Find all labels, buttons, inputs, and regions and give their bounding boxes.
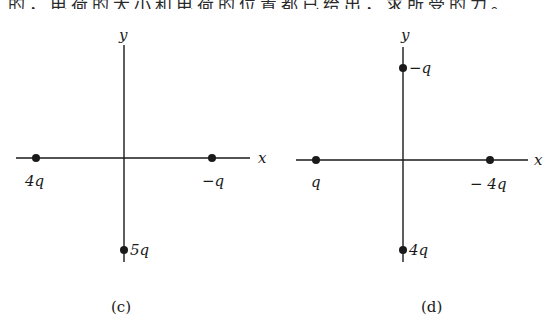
- charge-dot-c-2: [208, 154, 216, 162]
- charge-dot-c-1: [32, 154, 40, 162]
- charge-label-d-3: − 4q: [470, 175, 506, 193]
- figure-d: x y −q q − 4q 4q: [296, 26, 543, 262]
- charge-label-c-3: 5q: [130, 241, 149, 259]
- charge-dot-d-1: [399, 64, 407, 72]
- charge-label-d-1: −q: [409, 59, 431, 77]
- charge-label-c-2: −q: [202, 172, 224, 190]
- charge-label-d-4: 4q: [408, 241, 428, 259]
- caption-d: (d): [421, 298, 442, 316]
- charge-dot-d-2: [312, 156, 320, 164]
- charge-dot-c-3: [120, 246, 128, 254]
- charge-dot-d-3: [486, 156, 494, 164]
- figure-c: x y 4q −q 5q: [16, 26, 267, 262]
- x-axis-label-d: x: [534, 151, 543, 169]
- caption-c: (c): [111, 298, 131, 316]
- x-axis-label-c: x: [258, 149, 267, 167]
- charge-diagrams: x y 4q −q 5q x y −q q − 4q 4q: [0, 0, 543, 333]
- y-axis-label-d: y: [400, 26, 410, 44]
- charge-label-d-2: q: [311, 173, 321, 191]
- y-axis-label-c: y: [118, 26, 128, 44]
- charge-dot-d-4: [399, 246, 407, 254]
- charge-label-c-1: 4q: [24, 172, 44, 190]
